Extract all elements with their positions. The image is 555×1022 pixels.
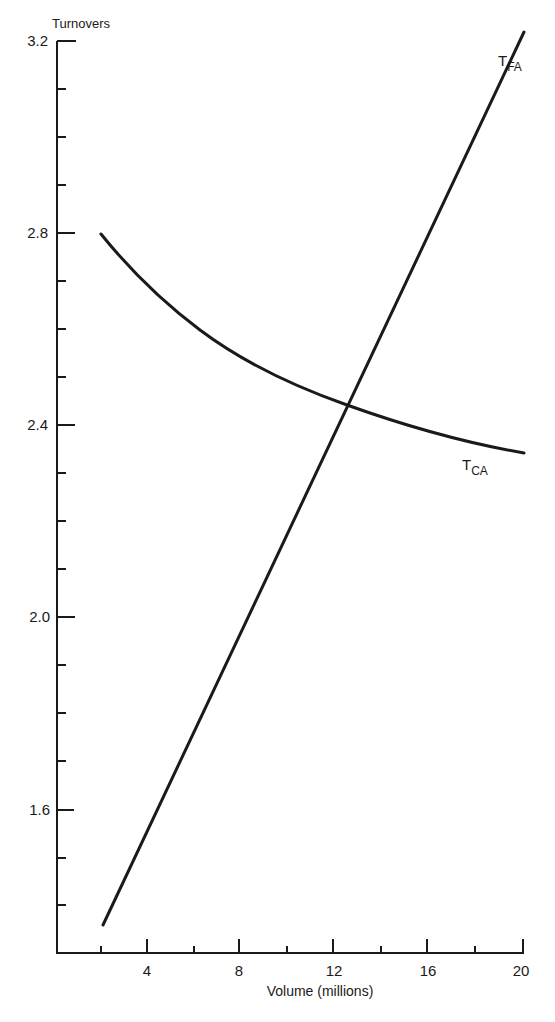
x-label-16: 16 [420,962,437,979]
tca-curve [101,234,524,453]
tfa-line [103,32,524,925]
y-label-1-6: 1.6 [29,801,50,818]
turnover-chart: Turnovers 3.2 2.8 2.4 2.0 1.6 4 8 12 16 … [0,0,555,1022]
series-labels: TFA TCA [462,52,522,478]
series-tfa [103,32,524,925]
y-axis-labels: Turnovers 3.2 2.8 2.4 2.0 1.6 [27,16,110,818]
x-label-20: 20 [513,962,530,979]
x-label-12: 12 [326,962,343,979]
y-title: Turnovers [52,16,111,31]
x-label-4: 4 [143,962,151,979]
x-axis-labels: 4 8 12 16 20 Volume (millions) [143,962,530,999]
tca-label: TCA [462,456,488,478]
x-label-8: 8 [235,962,243,979]
series-tca [101,234,524,453]
tfa-label: TFA [498,52,522,74]
y-label-3-2: 3.2 [27,32,48,49]
y-label-2-8: 2.8 [27,224,48,241]
x-axis [56,939,524,953]
y-label-2-0: 2.0 [29,608,50,625]
y-axis [57,41,76,953]
y-label-2-4: 2.4 [27,416,48,433]
x-title: Volume (millions) [267,983,374,999]
